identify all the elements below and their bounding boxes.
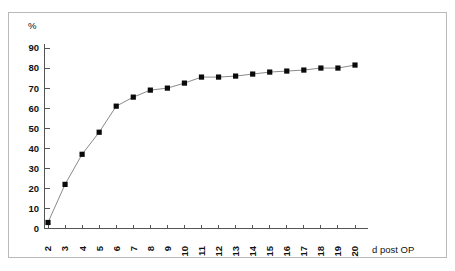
data-point-marker	[233, 73, 238, 78]
data-point-marker	[97, 130, 102, 135]
y-axis-ticks: 0102030405060708090	[28, 42, 50, 234]
y-tick-label: 0	[34, 223, 39, 234]
x-axis-title: d post OP	[372, 244, 414, 255]
x-tick-label: 13	[230, 246, 241, 257]
y-tick-label: 50	[28, 123, 39, 134]
y-tick-label: 70	[28, 83, 39, 94]
series-line	[48, 65, 355, 222]
x-tick-label: 7	[128, 246, 139, 251]
x-tick-label: 18	[315, 246, 326, 257]
x-tick-label: 16	[281, 246, 292, 257]
data-point-marker	[335, 65, 340, 70]
data-series	[45, 62, 357, 225]
data-point-marker	[267, 69, 272, 74]
x-tick-label: 3	[59, 246, 70, 251]
x-tick-label: 5	[94, 245, 105, 251]
x-tick-label: 12	[213, 246, 224, 257]
y-tick-label: 60	[28, 103, 39, 114]
x-tick-label: 10	[179, 246, 190, 257]
data-point-marker	[199, 74, 204, 79]
data-point-marker	[45, 220, 50, 225]
y-tick-label: 40	[28, 143, 39, 154]
x-tick-label: 20	[349, 246, 360, 257]
x-tick-label: 11	[196, 245, 207, 256]
y-tick-label: 10	[28, 203, 39, 214]
x-tick-label: 17	[298, 246, 309, 257]
y-tick-label: 90	[28, 42, 39, 53]
x-tick-label: 9	[162, 246, 173, 251]
data-point-marker	[216, 74, 221, 79]
data-point-marker	[131, 95, 136, 100]
data-point-marker	[301, 67, 306, 72]
x-tick-label: 2	[42, 246, 53, 251]
data-point-marker	[318, 65, 323, 70]
data-point-marker	[284, 68, 289, 73]
data-point-marker	[148, 88, 153, 93]
x-tick-label: 19	[332, 246, 343, 257]
x-tick-label: 8	[145, 246, 156, 251]
data-point-marker	[62, 182, 67, 187]
data-point-marker	[80, 152, 85, 157]
x-tick-label: 14	[247, 245, 258, 256]
x-tick-label: 6	[111, 246, 122, 251]
data-point-marker	[182, 81, 187, 86]
data-point-marker	[114, 104, 119, 109]
y-tick-label: 30	[28, 163, 39, 174]
data-point-marker	[352, 62, 357, 67]
y-axis-unit-label: %	[28, 20, 37, 31]
data-point-marker	[250, 71, 255, 76]
y-tick-label: 80	[28, 62, 39, 73]
line-chart: % 0102030405060708090 234567891011121314…	[0, 0, 455, 271]
x-tick-label: 15	[264, 245, 275, 256]
data-point-marker	[165, 86, 170, 91]
chart-screenshot: % 0102030405060708090 234567891011121314…	[0, 0, 455, 271]
x-tick-label: 4	[77, 245, 88, 251]
y-tick-label: 20	[28, 183, 39, 194]
x-axis-ticks: 234567891011121314151617181920	[42, 225, 360, 257]
